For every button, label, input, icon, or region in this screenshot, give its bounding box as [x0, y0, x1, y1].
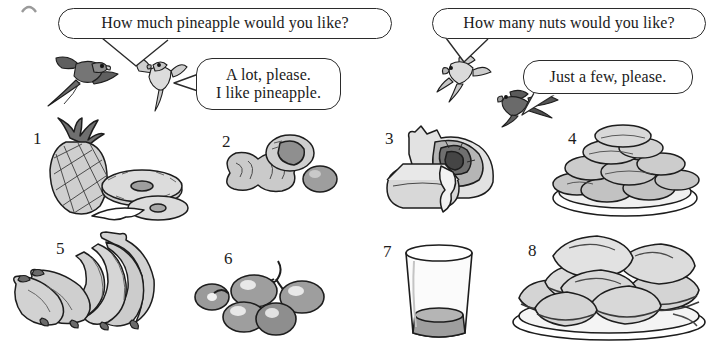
speech-bubble-tail-4: [520, 91, 556, 117]
speech-bubble-how-many-nuts: How many nuts would you like?: [432, 8, 706, 39]
item-bananas: [6, 230, 178, 340]
item-number-1: 1: [33, 130, 42, 147]
item-grapes: [196, 255, 338, 335]
speech-bubble-how-much-pineapple: How much pineapple would you like?: [58, 8, 392, 39]
item-number-4: 4: [568, 130, 577, 147]
item-number-6: 6: [224, 250, 233, 267]
item-number-8: 8: [528, 242, 537, 259]
item-number-7: 7: [383, 243, 392, 260]
worksheet-page: How much pineapple would you like? A lot…: [0, 0, 714, 344]
speech-bubble-tail-1: [100, 36, 170, 70]
speech-bubble-a-lot-please: A lot, please. I like pineapple.: [196, 58, 341, 110]
speech-bubble-just-a-few-please: Just a few, please.: [523, 60, 693, 94]
cropped-corner-mark: [20, 0, 38, 10]
item-number-2: 2: [222, 133, 231, 150]
item-pineapple: [30, 118, 190, 224]
item-number-3: 3: [385, 130, 394, 147]
item-number-5: 5: [56, 240, 65, 257]
item-glass: [398, 243, 480, 343]
item-cake-slice: [383, 124, 513, 216]
speech-bubble-tail-3: [444, 36, 490, 66]
